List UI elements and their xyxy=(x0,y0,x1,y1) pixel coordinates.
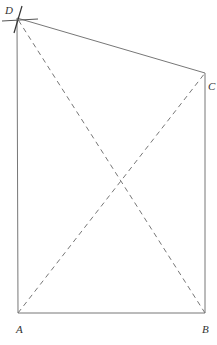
label-a: A xyxy=(15,323,23,335)
label-c: C xyxy=(208,80,216,92)
diagonal-ac xyxy=(18,73,205,313)
label-b: B xyxy=(202,323,209,335)
label-d: D xyxy=(4,4,13,16)
quadrilateral-diagram: D C A B xyxy=(0,0,217,345)
side-cd xyxy=(17,18,205,73)
diagonal-bd xyxy=(17,18,205,313)
side-da xyxy=(17,18,18,313)
